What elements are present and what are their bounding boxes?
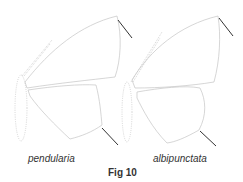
forewing-left [25, 16, 120, 88]
antenna-left [22, 40, 52, 76]
hindwing-left [28, 85, 102, 139]
figure-caption: Fig 10 [108, 167, 137, 178]
body-left [15, 75, 27, 141]
pointer-line-right-forewing [219, 18, 233, 36]
specimen-pendularia [15, 16, 120, 141]
pointer-line-left-hindwing [102, 128, 118, 145]
pointer-line-right-hindwing [200, 131, 216, 146]
body-right [122, 82, 132, 142]
specimen-albipunctata [122, 16, 220, 143]
specimen-label-albipunctata: albipunctata [153, 153, 207, 164]
hindwing-right [137, 87, 205, 143]
specimen-label-pendularia: pendularia [28, 153, 75, 164]
forewing-right [132, 16, 220, 88]
